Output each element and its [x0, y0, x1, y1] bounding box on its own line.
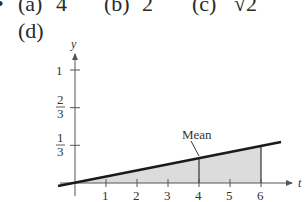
t-axis-label: t [298, 176, 302, 190]
y-tick-two-thirds-den: 3 [57, 106, 64, 121]
x-tick-2: 2 [133, 188, 140, 202]
y-tick-1: 1 [56, 63, 63, 78]
y-tick-one-third-num: 1 [57, 130, 64, 145]
density-graph: 1 2 3 4 5 6 1 2 3 1 3 y t Mean [0, 0, 305, 202]
mean-annotation: Mean [182, 127, 212, 142]
mean-pointer [191, 141, 199, 156]
x-tick-6: 6 [257, 188, 264, 202]
x-tick-5: 5 [226, 188, 233, 202]
x-tick-3: 3 [164, 188, 171, 202]
x-tick-4: 4 [195, 188, 202, 202]
y-tick-two-thirds-num: 2 [57, 92, 64, 107]
x-tick-1: 1 [102, 188, 109, 202]
y-axis-label: y [70, 37, 77, 51]
y-tick-one-third-den: 3 [57, 144, 64, 159]
